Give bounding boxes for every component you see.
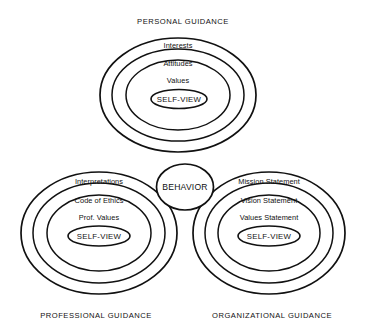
ring-label-values-statement: Values Statement — [240, 213, 299, 222]
group-professional: Interpretations Code of Ethics Prof. Val… — [21, 172, 177, 294]
ring-label-self-view-organizational: SELF-VIEW — [247, 232, 292, 241]
ring-label-attitudes: Attitudes — [163, 59, 192, 68]
caption-professional-guidance: PROFESSIONAL GUIDANCE — [40, 311, 152, 320]
caption-organizational-guidance: ORGANIZATIONAL GUIDANCE — [212, 311, 332, 320]
diagram-canvas: PERSONAL GUIDANCE Interests Attitudes Va… — [0, 0, 366, 332]
ring-label-self-view-personal: SELF-VIEW — [157, 95, 202, 104]
concentric-guidance-diagram: PERSONAL GUIDANCE Interests Attitudes Va… — [0, 0, 366, 332]
ring-label-mission-statement: Mission Statement — [238, 177, 300, 186]
center-behavior-node: BEHAVIOR — [157, 164, 214, 210]
ring-label-self-view-professional: SELF-VIEW — [77, 232, 122, 241]
ring-label-vision-statement: Vision Statement — [241, 196, 298, 205]
group-personal: Interests Attitudes Values SELF-VIEW — [100, 38, 256, 152]
group-organizational: Mission Statement Vision Statement Value… — [193, 172, 345, 294]
ring-label-values: Values — [167, 76, 190, 85]
behavior-label: BEHAVIOR — [162, 182, 207, 192]
ring-label-interests: Interests — [164, 41, 193, 50]
caption-personal-guidance: PERSONAL GUIDANCE — [137, 17, 229, 26]
ring-label-interpretations: Interpretations — [75, 177, 123, 186]
ring-label-code-of-ethics: Code of Ethics — [75, 196, 124, 205]
ring-label-prof-values: Prof. Values — [79, 213, 120, 222]
